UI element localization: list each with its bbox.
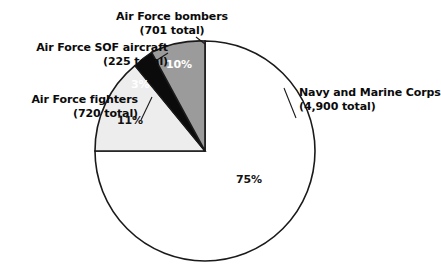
slice-percent-air-force-fighters: 11%	[117, 114, 143, 127]
callout-sof-line2: (225 total)	[6, 55, 168, 69]
slice-percent-air-force-sof-aircraft: 3%	[131, 78, 149, 91]
callout-sof-line1: Air Force SOF aircraft	[36, 41, 168, 54]
callout-bombers-line1: Air Force bombers	[116, 10, 228, 23]
callout-label-air-force-sof-aircraft: Air Force SOF aircraft (225 total)	[6, 41, 168, 68]
callout-navy-line1: Navy and Marine Corps	[299, 86, 441, 99]
slice-percent-navy-and-marine-corps: 75%	[236, 173, 262, 186]
callout-navy-line2: (4,900 total)	[299, 100, 427, 114]
callout-fighters-line1: Air Force fighters	[31, 93, 138, 106]
callout-label-air-force-bombers: Air Force bombers (701 total)	[104, 10, 240, 37]
callout-label-navy-and-marine-corps: Navy and Marine Corps (4,900 total)	[299, 86, 427, 113]
slice-percent-air-force-bombers: 10%	[166, 58, 192, 71]
callout-bombers-line2: (701 total)	[104, 24, 240, 38]
